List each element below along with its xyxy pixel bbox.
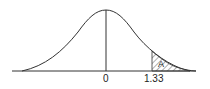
normal-curve-diagram: 0 1.33 A [0, 0, 210, 89]
area-label: A [158, 59, 164, 69]
normal-curve-svg: 0 1.33 A [0, 0, 210, 89]
bell-curve [22, 10, 196, 71]
z-value-label: 1.33 [144, 73, 164, 84]
mean-label: 0 [103, 73, 109, 84]
